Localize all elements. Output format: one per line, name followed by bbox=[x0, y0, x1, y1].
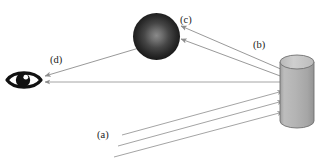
eye-highlight bbox=[23, 75, 28, 80]
incident-ray-2 bbox=[118, 101, 283, 146]
incident-ray-3 bbox=[114, 112, 283, 157]
gray-cylinder bbox=[280, 55, 314, 128]
ray-group-to-sphere-b bbox=[181, 26, 283, 77]
label-b: (b) bbox=[253, 40, 265, 51]
incident-ray-1 bbox=[122, 91, 283, 135]
ray-group-incident-a bbox=[114, 91, 283, 157]
label-d: (d) bbox=[50, 55, 62, 66]
eye-symbol bbox=[7, 73, 41, 87]
label-a: (a) bbox=[97, 130, 109, 141]
sphere-bound-ray-1 bbox=[181, 26, 283, 70]
figure-canvas: (a) (b) (c) (d) bbox=[0, 0, 332, 163]
sphere-bound-ray-2 bbox=[181, 39, 283, 77]
dark-sphere bbox=[133, 13, 180, 60]
label-c: (c) bbox=[180, 15, 192, 26]
ray-diagram-svg bbox=[0, 0, 332, 163]
eye-pupil bbox=[16, 73, 30, 87]
